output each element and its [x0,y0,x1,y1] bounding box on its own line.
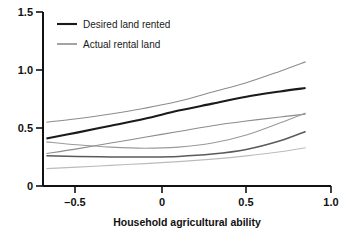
x-axis-group: –0.5 0 0.5 1.0 Household agricultural ab… [43,186,339,228]
legend: Desired land rented Actual rental land [57,19,170,50]
y-tick-label-1.5: 1.5 [18,6,33,18]
legend-label-actual-rental-land: Actual rental land [83,39,160,50]
x-tick-label-0.5: 0.5 [238,196,253,208]
y-tick-label-0: 0 [27,180,33,192]
y-tick-label-0.5: 0.5 [18,122,33,134]
series-path-desired-upper-ci [46,62,305,122]
series-path-desired-land-rented [46,88,305,138]
chart-container: 1.5 1.0 0.5 0 –0.5 0 0.5 1.0 Household a… [0,0,350,238]
x-tick-label-1.0: 1.0 [323,196,338,208]
y-tick-label-1.0: 1.0 [18,64,33,76]
x-axis-title: Household agricultural ability [113,216,261,228]
legend-label-desired-land-rented: Desired land rented [83,19,170,30]
series-layer [46,62,305,169]
y-axis-group: 1.5 1.0 0.5 0 [18,6,43,192]
series-path-actual-lower-ci [46,148,305,169]
line-chart-plot: 1.5 1.0 0.5 0 –0.5 0 0.5 1.0 Household a… [0,0,350,238]
x-tick-label-0: 0 [159,196,165,208]
x-tick-label--0.5: –0.5 [64,196,85,208]
